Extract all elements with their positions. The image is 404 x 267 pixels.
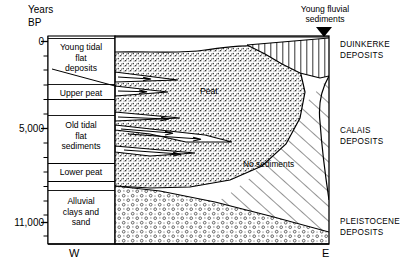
strata-label-upper-peat: Upper peat (51, 88, 111, 99)
cross-section-figure: Years BP 0 5,000 11,000 (0, 0, 404, 267)
strata-label-lower-peat: Lower peat (51, 167, 111, 178)
deposit-group-label-calais: CALAIS DEPOSITS (340, 126, 383, 147)
strata-label-old-tidal-flat-sediments: Old tidal flat sediments (51, 120, 111, 152)
deposit-group-label-duinkerke: DUINKERKE DEPOSITS (340, 40, 390, 61)
inner-label-no-sediments: No sediments (243, 159, 294, 169)
callout-young-fluvial-sediments: Young fluvial sediments (277, 4, 373, 24)
strata-label-alluvial-clays-and-sand: Alluvial clays and sand (51, 196, 111, 228)
compass-west: W (69, 248, 79, 259)
deposit-group-label-pleistocene: PLEISTOCENE DEPOSITS (340, 217, 400, 238)
section-panel (115, 36, 329, 244)
inner-label-peat: Peat (200, 86, 218, 96)
compass-east: E (322, 248, 329, 259)
strata-label-young-tidal-flat-deposits: Young tidal flat deposits (51, 42, 111, 74)
y-axis (41, 36, 48, 244)
